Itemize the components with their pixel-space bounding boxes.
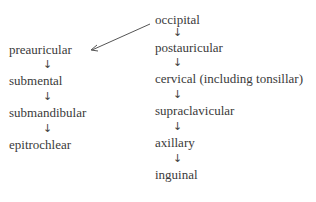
node-occipital: occipital — [155, 13, 200, 27]
node-submandibular: submandibular — [9, 106, 86, 120]
node-cervical: cervical (including tonsillar) — [155, 72, 303, 86]
node-preauricular: preauricular — [9, 43, 72, 57]
arrow-down-icon: ↓ — [43, 90, 52, 104]
arrow-down-icon: ↓ — [173, 26, 182, 40]
arrow-down-icon: ↓ — [173, 56, 182, 70]
node-submental: submental — [9, 74, 62, 88]
node-epitrochlear: epitrochlear — [9, 138, 71, 152]
arrow-down-icon: ↓ — [43, 122, 52, 136]
node-supraclavicular: supraclavicular — [155, 104, 234, 118]
node-inguinal: inguinal — [155, 168, 198, 182]
node-postauricular: postauricular — [155, 41, 223, 55]
arrow-down-icon: ↓ — [173, 152, 182, 166]
arrow-down-icon: ↓ — [43, 58, 52, 72]
arrow-down-icon: ↓ — [173, 120, 182, 134]
arrow-down-icon: ↓ — [173, 88, 182, 102]
node-axillary: axillary — [155, 136, 195, 150]
